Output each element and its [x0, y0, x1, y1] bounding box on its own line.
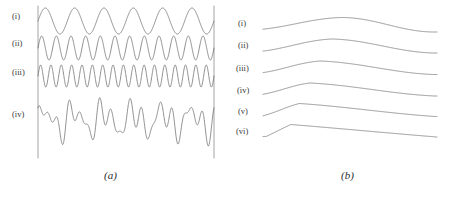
panel-a-trace-3 [38, 65, 214, 87]
panel-b-curve-6 [263, 125, 437, 138]
panel-a-trace-1 [38, 8, 214, 34]
panel-b-label-iii: (iii) [236, 64, 249, 73]
panel-b-label-i: (i) [238, 19, 246, 28]
panel-b: (i) (ii) (iii) (iv) (v) (vi) (b) [228, 0, 457, 200]
figure-container: (i) (ii) (iii) (iv) (a) (i) (ii) (iii) (… [0, 0, 457, 200]
panel-a-label-i: (i) [12, 12, 20, 21]
panel-b-label-vi: (vi) [236, 127, 248, 136]
panel-a-trace-4 [38, 98, 214, 146]
panel-a-label-iii: (iii) [12, 68, 25, 77]
panel-a-trace-2 [38, 36, 214, 60]
panel-a-label-iv: (iv) [12, 110, 24, 119]
panel-b-curve-3 [263, 61, 437, 75]
panel-b-label-ii: (ii) [238, 41, 248, 50]
panel-b-curve-2 [263, 39, 437, 53]
panel-a-caption: (a) [104, 170, 117, 181]
panel-a-label-ii: (ii) [12, 39, 22, 48]
panel-b-caption: (b) [341, 170, 354, 181]
panel-b-curve-1 [263, 18, 437, 33]
panel-b-label-iv: (iv) [237, 86, 249, 95]
panel-b-label-v: (v) [238, 107, 248, 116]
panel-b-curve-5 [263, 104, 437, 117]
panel-a: (i) (ii) (iii) (iv) (a) [0, 0, 228, 200]
panel-b-curve-4 [263, 83, 437, 96]
